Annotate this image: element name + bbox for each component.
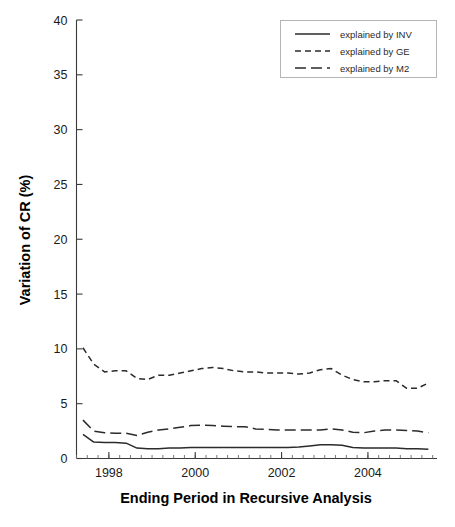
x-tick-label: 2004 bbox=[354, 466, 382, 480]
y-tick-label: 35 bbox=[54, 68, 68, 82]
y-tick-label: 20 bbox=[54, 233, 68, 247]
y-tick-label: 30 bbox=[54, 123, 68, 137]
y-axis-title: Variation of CR (%) bbox=[17, 175, 33, 306]
y-tick-label: 10 bbox=[54, 342, 68, 356]
y-tick-label: 5 bbox=[61, 397, 68, 411]
variation-of-cr-line-chart: 0510152025303540 1998200020022004 Ending… bbox=[0, 0, 455, 527]
x-axis-title: Ending Period in Recursive Analysis bbox=[120, 490, 372, 506]
legend-label-1: explained by GE bbox=[340, 46, 410, 57]
y-tick-label: 40 bbox=[54, 14, 68, 28]
x-tick-label: 2002 bbox=[268, 466, 296, 480]
x-tick-label: 2000 bbox=[181, 466, 209, 480]
y-tick-label: 25 bbox=[54, 178, 68, 192]
y-tick-label: 15 bbox=[54, 288, 68, 302]
legend-label-2: explained by M2 bbox=[340, 63, 409, 74]
chart-figure: 0510152025303540 1998200020022004 Ending… bbox=[0, 0, 455, 527]
y-tick-label: 0 bbox=[61, 452, 68, 466]
legend-label-0: explained by INV bbox=[340, 29, 412, 40]
chart-legend: explained by INVexplained by GEexplained… bbox=[281, 21, 437, 78]
x-tick-label: 1998 bbox=[95, 466, 123, 480]
